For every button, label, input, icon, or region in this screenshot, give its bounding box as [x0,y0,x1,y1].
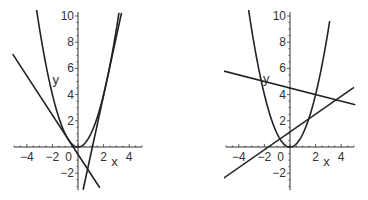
y-tick-label: 10 [273,9,287,23]
parabola-curve [33,0,119,147]
right-plot: −4−2024−2246810xy [223,4,355,190]
y-tick-label: 6 [67,61,74,75]
y-tick-label: 2 [67,114,74,128]
x-tick-label: 2 [312,150,319,164]
y-tick-label: 8 [67,35,74,49]
x-tick-label: 0 [277,150,284,164]
x-tick-label: −4 [232,150,246,164]
x-tick-label: 2 [100,150,107,164]
x-tick-label: 0 [65,150,72,164]
x-tick-label: −4 [20,150,34,164]
x-axis-label: x [111,154,118,169]
y-tick-label: 6 [279,61,286,75]
y-tick-label: 2 [279,114,286,128]
parabola-curve [248,4,330,147]
y-axis-label: y [263,71,270,86]
y-tick-label: 10 [61,9,75,23]
left-plot: −4−2024−2246810xy [13,0,142,190]
y-tick-label: 4 [279,88,286,102]
y-tick-label: −2 [272,166,286,180]
x-tick-label: 4 [338,150,345,164]
y-tick-label: 8 [279,35,286,49]
x-tick-label: −2 [46,150,60,164]
y-tick-label: 4 [67,88,74,102]
x-tick-label: 4 [126,150,133,164]
y-axis-label: y [52,72,59,87]
x-axis-label: x [323,154,330,169]
y-tick-label: −2 [60,166,74,180]
figure: −4−2024−2246810xy −4−2024−2246810xy [0,0,368,200]
